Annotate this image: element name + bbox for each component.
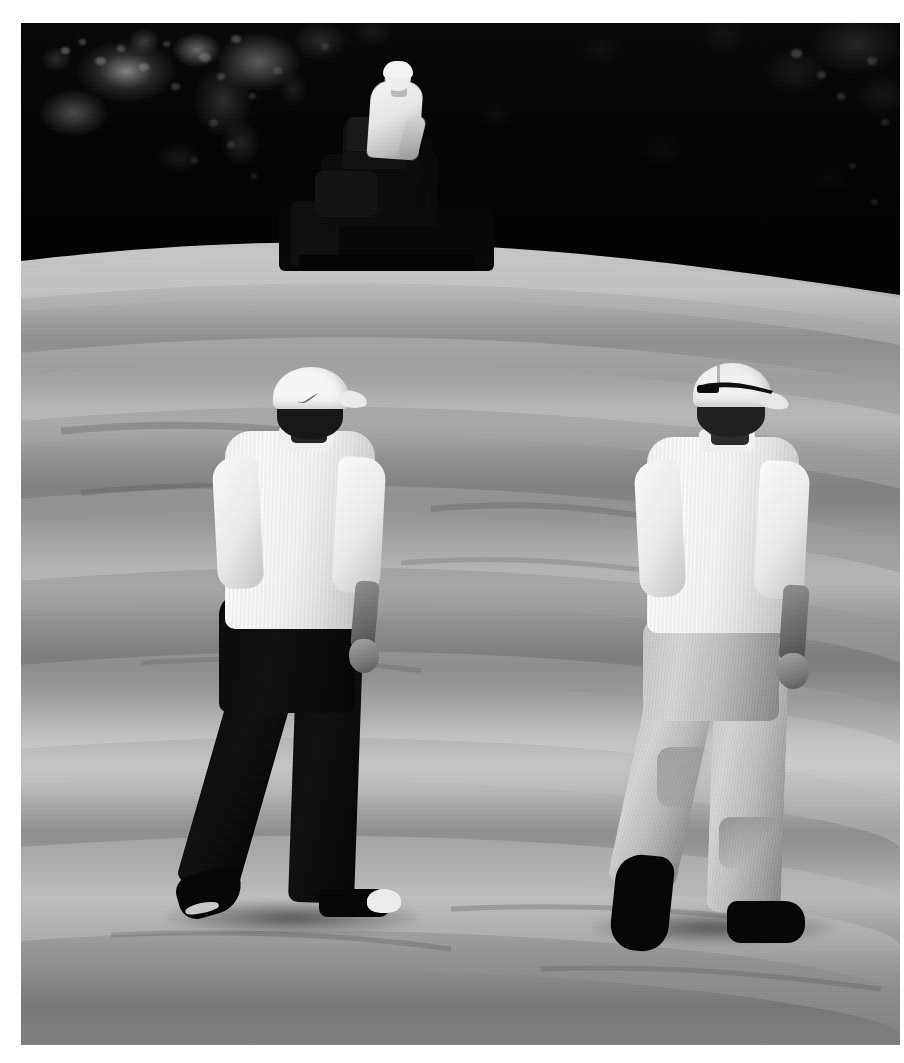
ride-on-mower — [269, 59, 509, 271]
golfer-right-sleeve-left — [633, 460, 686, 598]
golfer-right-hand — [777, 653, 809, 689]
photo-frame — [0, 0, 904, 1063]
nike-swoosh-icon — [297, 389, 317, 398]
golfer-right-forearm — [778, 584, 809, 662]
golfer-left-sleeve-right — [331, 456, 386, 594]
golfer-left-hand — [349, 639, 379, 673]
mower-engine-housing — [315, 171, 377, 217]
photograph — [21, 23, 900, 1045]
golfer-left-shoe-front-heel — [367, 889, 401, 913]
golfer-left — [171, 365, 421, 951]
golfer-right-sleeve-right — [753, 460, 810, 600]
sunglasses-svg — [695, 381, 775, 397]
golfer-left-sleeve-left — [212, 456, 265, 590]
nike-swoosh-svg — [297, 393, 319, 403]
sunglasses-icon — [695, 381, 775, 397]
golfer-right-trouser-knee-fold — [719, 817, 781, 869]
mower-operator-cap — [383, 61, 413, 78]
golfer-right — [599, 355, 829, 955]
golfer-right-trouser-shadow-fold — [657, 747, 713, 807]
mower-roller — [299, 255, 474, 271]
golfer-right-shoe-front — [727, 901, 805, 943]
